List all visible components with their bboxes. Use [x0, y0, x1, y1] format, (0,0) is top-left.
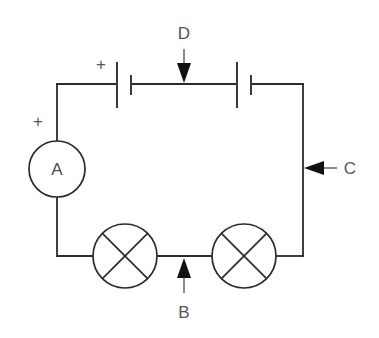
callout-d-label: D [178, 24, 190, 43]
lamp-right [212, 224, 276, 288]
circuit-diagram-canvas: A + + D [0, 0, 379, 338]
callout-c-arrowhead-icon [304, 161, 324, 175]
callout-b-arrowhead-icon [177, 258, 191, 278]
wire-group [57, 84, 303, 256]
lamp-left [93, 224, 157, 288]
callout-d-arrowhead-icon [177, 63, 191, 83]
callout-d: D [177, 24, 191, 83]
ammeter-symbol-letter: A [51, 160, 63, 179]
cell-left-plus-terminal-marker: + [96, 55, 106, 74]
battery-cell-left: + [96, 55, 131, 108]
callout-b-label: B [178, 303, 189, 322]
ammeter-plus-terminal-marker: + [33, 112, 43, 131]
callout-c-label: C [344, 159, 356, 178]
battery-cell-right [237, 62, 251, 108]
callout-c: C [304, 159, 356, 178]
callout-b: B [177, 258, 191, 322]
wire-left-lower-segment [57, 197, 93, 256]
circuit-schematic: A + + D [0, 0, 379, 338]
